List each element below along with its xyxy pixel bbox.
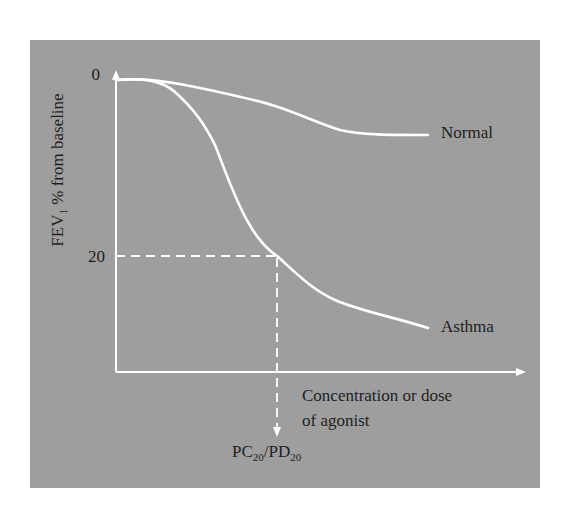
x-axis-arrow-icon (516, 368, 526, 376)
pc20-pd20-label: PC20/PD20 (232, 443, 301, 463)
x-axis-label: Concentration or dose of agonist (302, 383, 452, 433)
y-label-sub: 1 (57, 209, 69, 215)
pd-sub: 20 (290, 451, 301, 463)
x-label-line-2: of agonist (302, 408, 452, 433)
pd-text: /PD (264, 442, 290, 461)
pc-text: PC (232, 442, 253, 461)
pc-sub: 20 (253, 451, 264, 463)
pc20-arrow-icon (273, 427, 281, 437)
series-label-normal: Normal (441, 124, 493, 141)
asthma-curve (116, 79, 428, 328)
y-label-rest: % from baseline (48, 93, 67, 209)
x-label-line-1: Concentration or dose (302, 383, 452, 408)
y-label-main: FEV (48, 215, 67, 247)
y-axis-label: FEV1 % from baseline (48, 93, 69, 246)
series-label-asthma: Asthma (441, 318, 494, 335)
y-tick-20: 20 (75, 248, 105, 265)
y-tick-0: 0 (70, 66, 100, 83)
normal-curve (116, 79, 428, 135)
